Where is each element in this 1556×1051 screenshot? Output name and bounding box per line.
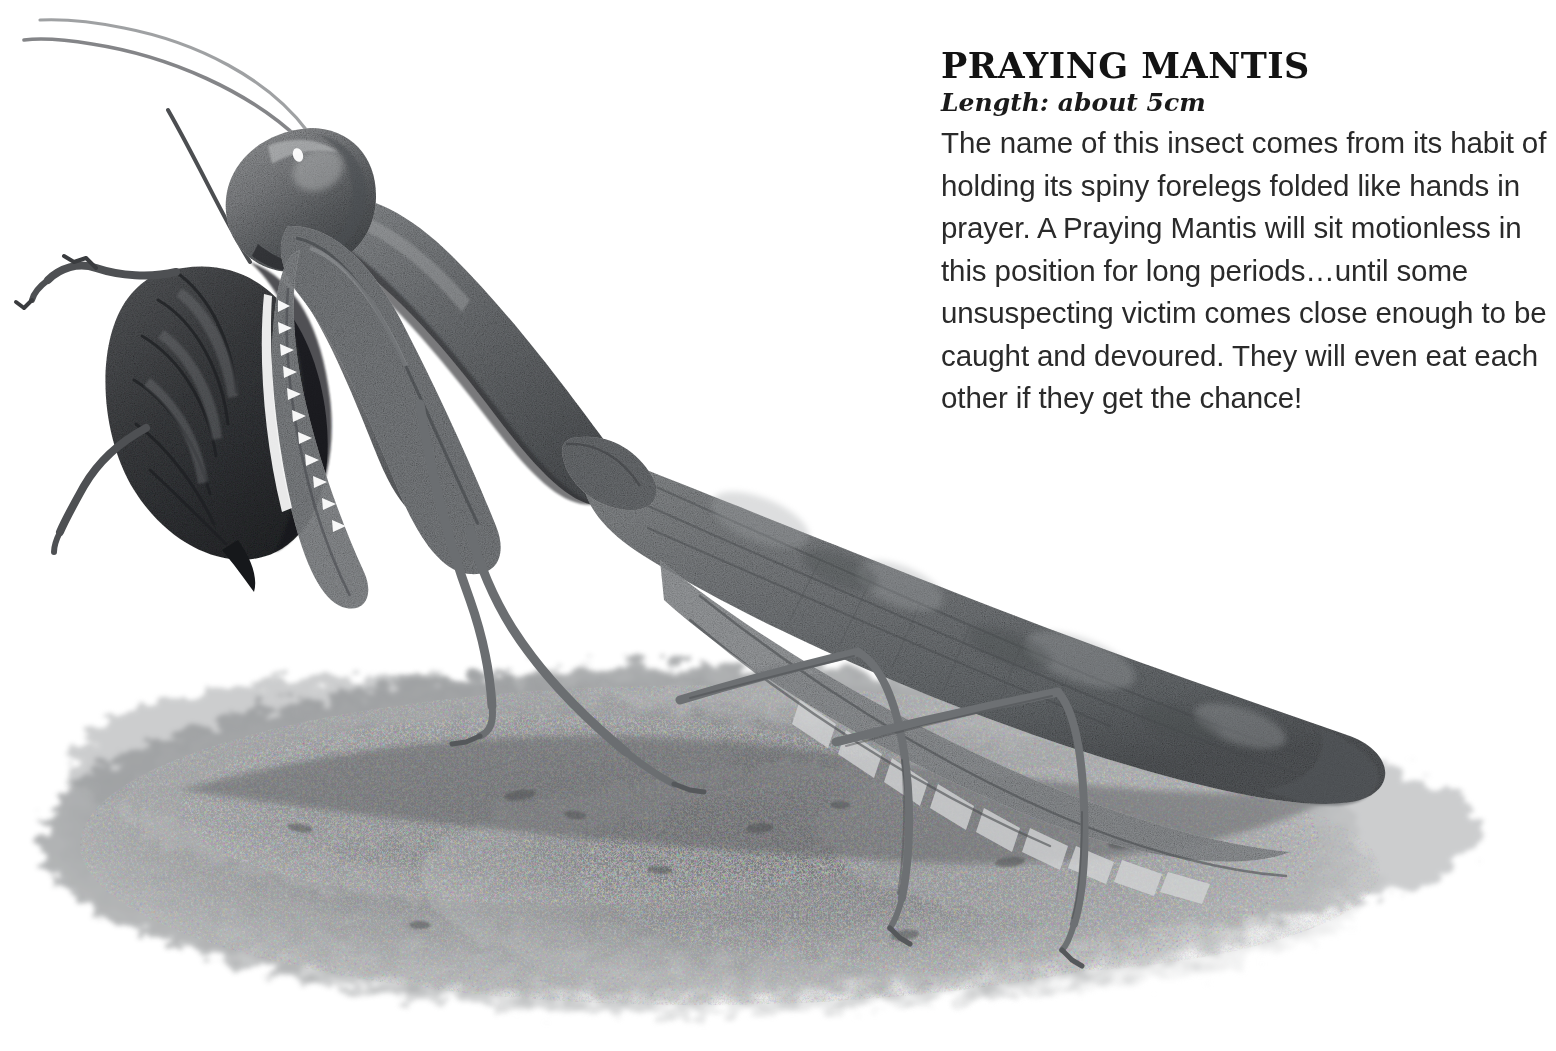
species-length-label: Length: about 5cm [941, 89, 1549, 117]
illustration-page: PRAYING MANTIS Length: about 5cm The nam… [0, 0, 1556, 1051]
species-text-panel: PRAYING MANTIS Length: about 5cm The nam… [941, 48, 1549, 420]
page-title: PRAYING MANTIS [941, 48, 1549, 85]
antenna-left [24, 39, 300, 140]
species-description: The name of this insect comes from its h… [941, 122, 1549, 420]
